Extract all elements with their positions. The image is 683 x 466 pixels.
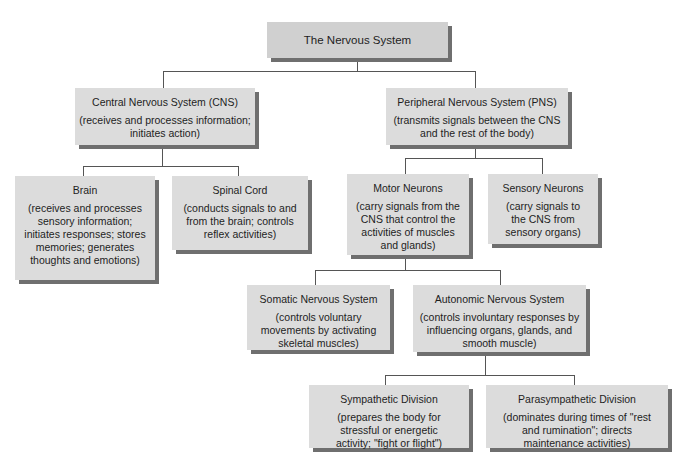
node-pns: Peripheral Nervous System (PNS) (transmi… [386, 88, 568, 145]
connector-to-cns [163, 71, 164, 88]
connector-cns-down [162, 145, 163, 166]
node-description: (receives and processes information; ini… [75, 114, 255, 140]
connector-to-sympathetic [385, 375, 386, 385]
node-brain: Brain (receives and processes sensory in… [15, 176, 155, 280]
connector-to-parasympathetic [574, 375, 575, 385]
connector-to-brain [83, 166, 84, 176]
node-autonomic-nervous-system: Autonomic Nervous System (controls invol… [413, 285, 586, 352]
connector-pns-down [475, 145, 476, 158]
connector-to-somatic [315, 270, 316, 285]
connector-cns-horizontal [83, 166, 239, 167]
node-description: (carry signals from the CNS that control… [347, 200, 469, 252]
node-sensory-neurons: Sensory Neurons (carry signals to the CN… [488, 174, 598, 244]
connector-to-autonomic [500, 270, 501, 285]
node-title: Motor Neurons [347, 182, 469, 195]
connector-motor-horizontal [315, 270, 501, 271]
connector-pns-horizontal [405, 158, 543, 159]
connector-to-motor [405, 158, 406, 174]
node-spinal-cord: Spinal Cord (conducts signals to and fro… [172, 176, 308, 250]
node-title: Sympathetic Division [309, 393, 469, 406]
node-description: (controls involuntary responses by influ… [413, 311, 586, 350]
node-title: The Nervous System [267, 34, 448, 47]
connector-to-sensory [542, 158, 543, 174]
node-description: (prepares the body for stressful or ener… [309, 411, 469, 450]
connector-autonomic-horizontal [385, 375, 575, 376]
node-title: Spinal Cord [172, 184, 308, 197]
node-motor-neurons: Motor Neurons (carry signals from the CN… [347, 174, 469, 255]
node-title: Autonomic Nervous System [413, 293, 586, 306]
connector-root-down [357, 58, 358, 71]
node-title: Brain [15, 184, 155, 197]
node-nervous-system: The Nervous System [267, 22, 448, 58]
node-title: Central Nervous System (CNS) [75, 96, 255, 109]
connector-motor-down [405, 255, 406, 270]
node-description: (carry signals to the CNS from sensory o… [488, 200, 598, 239]
node-somatic-nervous-system: Somatic Nervous System (controls volunta… [247, 285, 390, 350]
node-description: (dominates during times of "rest and rum… [486, 411, 668, 450]
connector-to-pns [475, 71, 476, 88]
node-cns: Central Nervous System (CNS) (receives a… [75, 88, 255, 145]
connector-to-spinal-cord [238, 166, 239, 176]
node-title: Sensory Neurons [488, 182, 598, 195]
node-parasympathetic-division: Parasympathetic Division (dominates duri… [486, 385, 668, 448]
node-title: Peripheral Nervous System (PNS) [386, 96, 568, 109]
connector-root-horizontal [163, 71, 476, 72]
node-description: (controls voluntary movements by activat… [247, 311, 390, 350]
node-sympathetic-division: Sympathetic Division (prepares the body … [309, 385, 469, 448]
connector-autonomic-down [485, 352, 486, 375]
node-title: Somatic Nervous System [247, 293, 390, 306]
node-description: (transmits signals between the CNS and t… [386, 114, 568, 140]
node-description: (receives and processes sensory informat… [15, 202, 155, 267]
node-description: (conducts signals to and from the brain;… [172, 202, 308, 241]
node-title: Parasympathetic Division [486, 393, 668, 406]
